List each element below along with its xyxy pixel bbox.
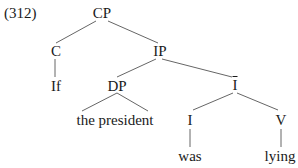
node-dp: DP (107, 79, 126, 94)
node-i-bar: I (233, 78, 238, 93)
leaf-lying: lying (265, 149, 296, 164)
node-c: C (51, 44, 61, 59)
node-ip: IP (153, 44, 166, 59)
node-cp: CP (93, 6, 111, 21)
leaf-if: If (51, 79, 61, 94)
node-v: V (276, 113, 287, 128)
node-i: I (188, 113, 193, 128)
leaf-the-president: the president (76, 113, 153, 128)
tree-branches (0, 0, 298, 168)
leaf-was: was (178, 149, 201, 164)
